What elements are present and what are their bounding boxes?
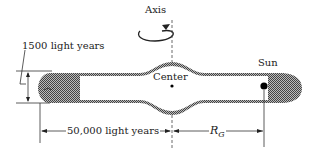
radius-dimension (40, 103, 171, 143)
rg-label: RG (209, 125, 226, 139)
sun-dot (260, 82, 267, 89)
center-label: Center (153, 72, 188, 82)
thickness-label: 1500 light years (22, 41, 105, 51)
radius-label: 50,000 light years (66, 126, 160, 136)
rg-sub: G (218, 130, 224, 139)
rotation-arrow-icon (139, 24, 174, 41)
galaxy-diagram: Axis 1500 light years Center Sun 50,000 … (0, 0, 312, 155)
axis-label: Axis (145, 5, 166, 15)
sun-label: Sun (258, 58, 278, 68)
center-dot (170, 84, 173, 87)
